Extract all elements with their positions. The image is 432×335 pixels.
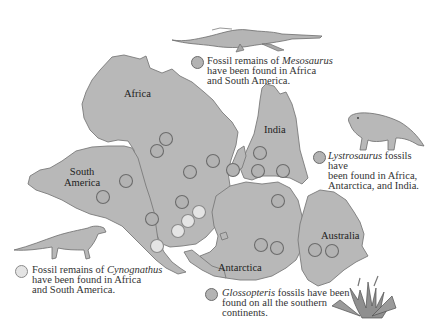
label-south-america-line2: America <box>64 177 100 188</box>
label-africa: Africa <box>124 88 151 99</box>
fossil-dot <box>120 175 133 188</box>
legend-lystrosaurus: Lystrosaurus fossils have been found in … <box>328 151 432 191</box>
legend-mesosaurus: Fossil remains of Mesosaurus have been f… <box>207 56 333 86</box>
mesosaurus-illustration <box>172 28 322 52</box>
lystrosaurus-illustration <box>348 113 424 150</box>
fossil-dot <box>309 244 322 257</box>
fossil-dot <box>184 166 197 179</box>
fossil-dot <box>252 165 265 178</box>
fossil-dot <box>277 165 290 178</box>
legend-dot-mesosaurus <box>191 56 204 69</box>
fossil-dot <box>193 206 206 219</box>
label-antarctica: Antarctica <box>218 262 262 273</box>
fossil-dot <box>146 213 159 226</box>
fossil-dot <box>227 164 240 177</box>
legend-dot-lystrosaurus <box>313 151 326 164</box>
legend-cynognathus: Fossil remains of Cynognathus have been … <box>32 265 162 295</box>
legend-dot-cynognathus <box>15 265 28 278</box>
fossil-dot <box>207 155 220 168</box>
label-india: India <box>264 124 286 135</box>
label-australia: Australia <box>321 230 360 241</box>
fossil-dot <box>271 242 284 255</box>
fossil-dot <box>176 196 189 209</box>
gondwana-fossil-map: Africa South America India Antarctica Au… <box>0 0 432 335</box>
fossil-dot <box>326 245 339 258</box>
fossil-dot <box>254 147 267 160</box>
fossil-dot <box>160 133 173 146</box>
fossil-dot <box>182 215 195 228</box>
small-island <box>220 232 228 240</box>
legend-glossopteris: Glossopteris fossils have been found on … <box>222 288 349 318</box>
cynognathus-illustration <box>14 226 106 259</box>
fossil-dot <box>151 145 164 158</box>
fossil-dot <box>272 195 285 208</box>
fossil-dot <box>172 225 185 238</box>
label-south-america-line1: South <box>64 166 100 177</box>
label-south-america: South America <box>64 166 100 188</box>
fossil-dot <box>151 240 164 253</box>
fossil-dot <box>97 191 110 204</box>
legend-dot-glossopteris <box>205 288 218 301</box>
fossil-dot <box>255 239 268 252</box>
